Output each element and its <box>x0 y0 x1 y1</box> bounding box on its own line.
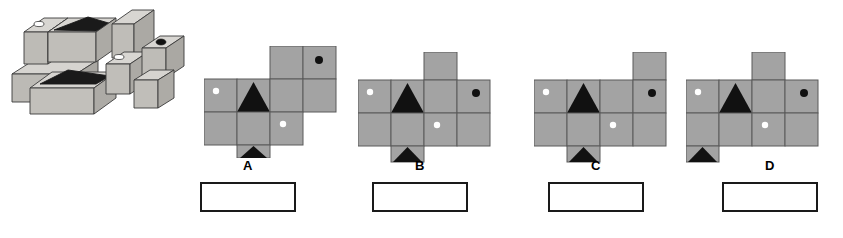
net-cell <box>237 112 270 145</box>
dot-black-icon <box>315 56 323 64</box>
net-cell <box>270 46 303 79</box>
net-cell <box>686 113 719 146</box>
net-cell <box>752 52 785 80</box>
answer-box-b[interactable] <box>372 182 468 212</box>
option-a-net[interactable] <box>204 46 344 158</box>
option-a[interactable] <box>204 46 344 158</box>
dot-black-right-cube <box>156 39 166 45</box>
net-cell <box>785 80 818 113</box>
dot-white-icon <box>213 88 219 94</box>
net-cell <box>633 113 666 146</box>
net-cell <box>358 80 391 113</box>
net-cell <box>600 113 633 146</box>
dot-white-middle-cube <box>114 55 124 60</box>
net-cell <box>424 52 457 80</box>
question-canvas: A B C D <box>0 0 843 238</box>
net-cell <box>457 80 490 113</box>
net-cell <box>534 113 567 146</box>
net-cell <box>303 79 336 112</box>
dot-white-upper-left <box>34 21 44 26</box>
net-cell <box>633 80 666 113</box>
answer-box-c[interactable] <box>548 182 644 212</box>
net-cell <box>270 112 303 145</box>
stimulus-3d-blocks <box>6 2 206 120</box>
net-cell <box>633 52 666 80</box>
net-cell <box>567 113 600 146</box>
net-cell <box>752 80 785 113</box>
option-b-label: B <box>372 159 468 173</box>
net-cell <box>391 113 424 146</box>
dot-white-icon <box>280 121 286 127</box>
option-d-net[interactable] <box>686 52 826 164</box>
answer-box-a[interactable] <box>200 182 296 212</box>
dot-white-icon <box>762 122 768 128</box>
option-c-label: C <box>548 159 644 173</box>
option-c-net[interactable] <box>534 52 674 164</box>
answer-box-d[interactable] <box>722 182 818 212</box>
option-b-net[interactable] <box>358 52 498 164</box>
dot-white-icon <box>367 89 373 95</box>
dot-white-icon <box>434 122 440 128</box>
dot-black-icon <box>648 89 656 97</box>
option-a-label: A <box>200 159 296 173</box>
net-cell <box>785 113 818 146</box>
dot-black-icon <box>472 89 480 97</box>
option-b[interactable] <box>358 52 498 164</box>
net-cell <box>204 79 237 112</box>
option-d-label: D <box>722 159 818 173</box>
dot-white-icon <box>543 89 549 95</box>
net-cell <box>457 113 490 146</box>
net-cell <box>424 113 457 146</box>
dot-white-icon <box>610 122 616 128</box>
net-cell <box>424 80 457 113</box>
blocks-illustration <box>6 2 206 120</box>
dot-black-icon <box>800 89 808 97</box>
net-cell <box>600 80 633 113</box>
net-cell <box>719 113 752 146</box>
dot-white-icon <box>695 89 701 95</box>
net-cell <box>752 113 785 146</box>
option-d[interactable] <box>686 52 826 164</box>
net-cell <box>686 80 719 113</box>
net-cell <box>270 79 303 112</box>
net-cell <box>534 80 567 113</box>
option-c[interactable] <box>534 52 674 164</box>
net-cell <box>358 113 391 146</box>
net-cell <box>204 112 237 145</box>
